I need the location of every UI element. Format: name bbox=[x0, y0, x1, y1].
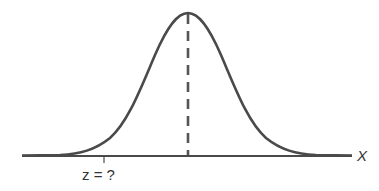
normal-curve-diagram: z = ? X bbox=[0, 0, 379, 191]
z-label: z = ? bbox=[82, 166, 115, 183]
x-axis-label: X bbox=[356, 147, 368, 164]
